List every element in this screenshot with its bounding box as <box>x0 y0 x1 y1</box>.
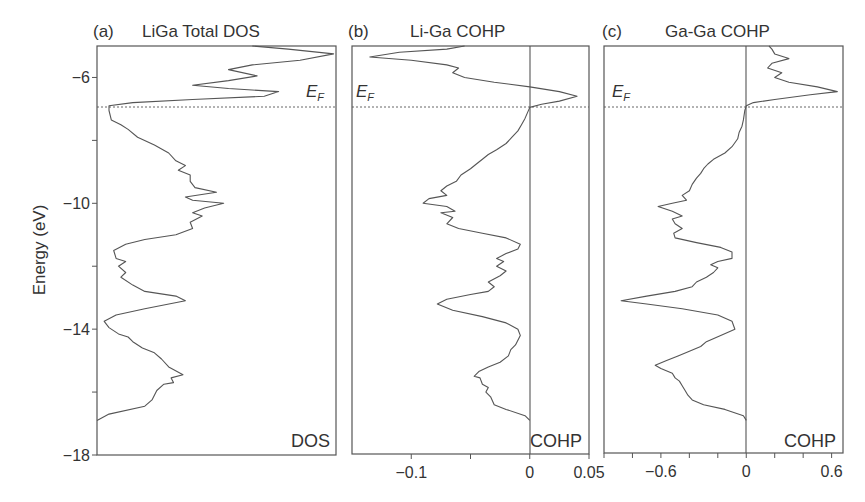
panel-c-frame <box>604 46 843 453</box>
panel-b-letter: (b) <box>348 22 369 41</box>
panel-c-letter: (c) <box>602 22 622 41</box>
panel-a-title: LiGa Total DOS <box>142 22 260 41</box>
panel-a: (a) LiGa Total DOS −6−10−14−18 EF DOS <box>63 22 336 464</box>
x-tick-label: 0.6 <box>820 463 842 480</box>
y-axis-ticks: −6−10−14−18 <box>63 69 97 464</box>
y-axis-label: Energy (eV) <box>30 205 49 296</box>
fermi-level-label: EF <box>356 82 375 103</box>
x-tick-label: 0.05 <box>573 464 604 481</box>
x-tick-label: −0.6 <box>645 463 677 480</box>
ga-ga-cohp-curve <box>621 46 837 420</box>
x-tick-label: 0 <box>525 464 534 481</box>
y-tick-label: −14 <box>63 321 90 338</box>
panel-c-corner-label: COHP <box>784 431 836 451</box>
panel-b: (b) Li-Ga COHP −0.100.05 EF COHP <box>348 22 605 481</box>
panel-c-title: Ga-Ga COHP <box>665 22 770 41</box>
panel-a-letter: (a) <box>93 22 114 41</box>
panel-a-frame <box>97 46 336 455</box>
y-tick-label: −6 <box>72 69 90 86</box>
x-axis-ticks: −0.600.6 <box>604 453 843 480</box>
panel-a-corner-label: DOS <box>291 431 330 451</box>
panel-b-corner-label: COHP <box>530 431 582 451</box>
li-ga-cohp-curve <box>370 46 577 420</box>
fermi-level-label: EF <box>306 82 325 103</box>
figure: Energy (eV) (a) LiGa Total DOS −6−10−14−… <box>0 0 865 502</box>
x-axis-ticks: −0.100.05 <box>395 454 604 481</box>
x-tick-label: −0.1 <box>395 464 427 481</box>
fermi-level-label: EF <box>612 82 631 103</box>
panel-c: (c) Ga-Ga COHP −0.600.6 EF COHP <box>602 22 843 480</box>
panel-b-title: Li-Ga COHP <box>410 22 505 41</box>
x-tick-label: 0 <box>742 463 751 480</box>
y-tick-label: −10 <box>63 195 90 212</box>
y-tick-label: −18 <box>63 447 90 464</box>
dos-curve <box>97 46 334 420</box>
